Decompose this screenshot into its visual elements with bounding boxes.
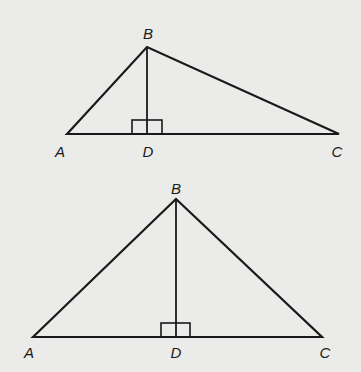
- vertex-label-d: D: [143, 144, 154, 159]
- diagram-canvas: BADCBADC: [0, 0, 361, 372]
- triangle-abc: [67, 47, 339, 134]
- vertex-label-c: C: [332, 144, 343, 159]
- vertex-label-a: A: [55, 144, 65, 159]
- triangle-bottom: [33, 199, 322, 337]
- vertex-label-d: D: [171, 345, 182, 360]
- vertex-label-b: B: [143, 26, 153, 41]
- triangle-abc: [33, 199, 322, 337]
- vertex-label-c: C: [320, 345, 331, 360]
- vertex-label-a: A: [24, 345, 34, 360]
- vertex-label-b: B: [171, 181, 181, 196]
- triangle-top: [67, 47, 339, 134]
